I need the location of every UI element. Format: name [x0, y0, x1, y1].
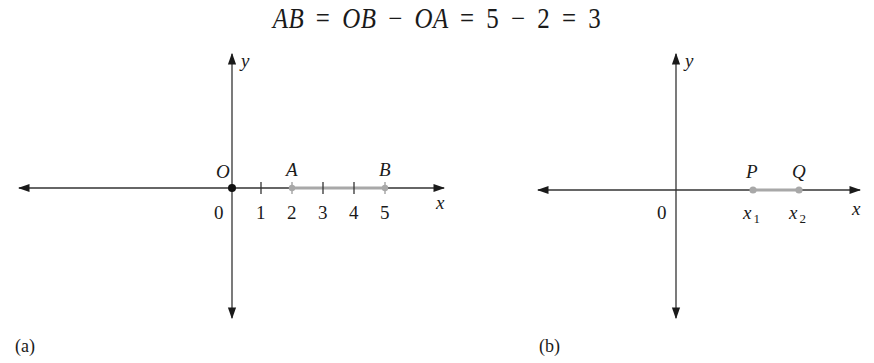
point-label-a: A — [284, 159, 298, 180]
y-axis-label-b: y — [683, 50, 694, 71]
point-p-dot — [749, 186, 756, 193]
x-axis-label-a: x — [435, 192, 445, 213]
y-axis-label-a: y — [239, 50, 250, 71]
figure-b: P Q 0 x1 x2 x y — [538, 50, 861, 318]
x-axis-label-b: x — [851, 198, 861, 219]
origin-label-o: O — [216, 161, 230, 182]
caption-a: (a) — [15, 336, 35, 357]
point-label-b: B — [379, 159, 391, 180]
tick-label-1: 1 — [256, 202, 266, 223]
tick-label-2: 2 — [287, 202, 297, 223]
point-a-dot — [289, 185, 295, 191]
coord-label-x2: x2 — [788, 202, 806, 226]
origin-value-b: 0 — [657, 202, 667, 223]
tick-label-4: 4 — [349, 202, 359, 223]
origin-value-a: 0 — [214, 202, 224, 223]
point-label-q: Q — [792, 161, 806, 182]
tick-label-3: 3 — [318, 202, 328, 223]
coord-label-x1: x1 — [742, 202, 760, 226]
figure-a: O A B 0 1 2 3 4 5 x y — [19, 50, 445, 318]
point-q-dot — [795, 186, 802, 193]
caption-b: (b) — [539, 336, 560, 357]
origin-dot — [228, 184, 236, 192]
point-b-dot — [382, 185, 388, 191]
number-line-diagrams: O A B 0 1 2 3 4 5 x y P Q 0 x1 x2 x y — [0, 0, 874, 363]
tick-label-5: 5 — [380, 202, 390, 223]
point-label-p: P — [745, 161, 758, 182]
